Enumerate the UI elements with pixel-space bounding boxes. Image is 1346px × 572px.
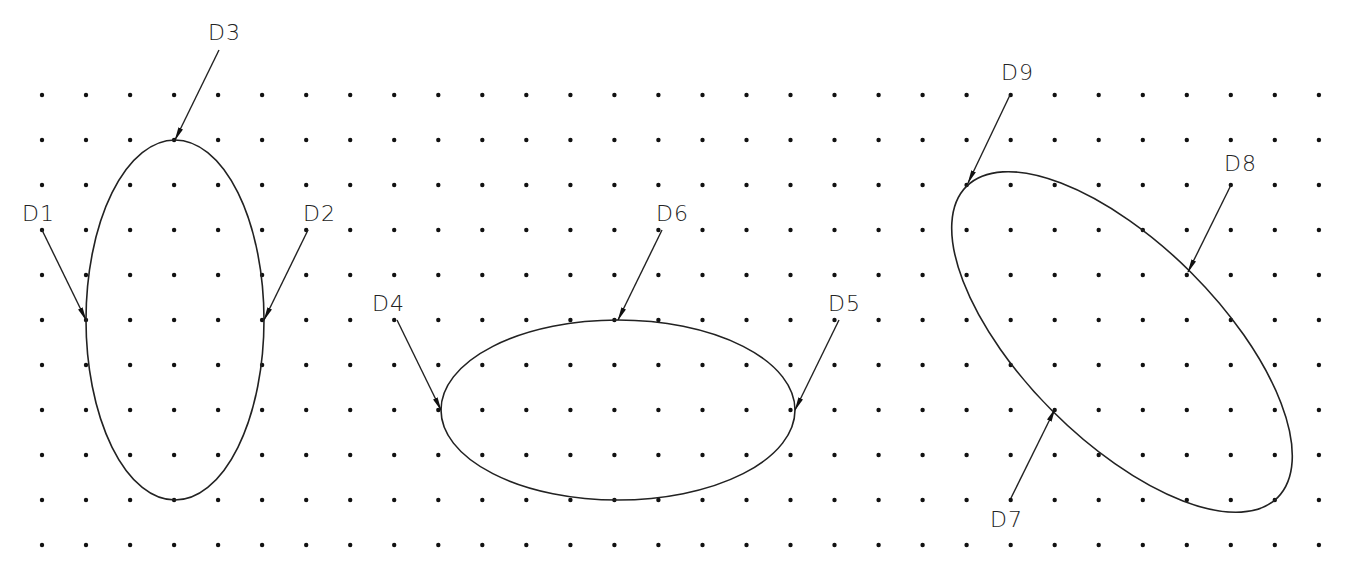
- grid-dot: [1097, 138, 1101, 142]
- callout-d2: D2: [264, 201, 336, 320]
- grid-dot: [348, 183, 352, 187]
- grid-dot: [1097, 273, 1101, 277]
- grid-dot: [656, 138, 660, 142]
- grid-dot: [40, 498, 44, 502]
- grid-dot: [524, 453, 528, 457]
- grid-dot: [40, 273, 44, 277]
- grid-dot: [480, 228, 484, 232]
- grid-dot: [1229, 93, 1233, 97]
- grid-dot: [392, 273, 396, 277]
- grid-dot: [1141, 138, 1145, 142]
- grid-dot: [216, 498, 220, 502]
- grid-dot: [920, 228, 924, 232]
- grid-dot: [1229, 273, 1233, 277]
- grid-dot: [40, 363, 44, 367]
- grid-dot: [920, 318, 924, 322]
- grid-dot: [392, 408, 396, 412]
- callout-d4: D4: [372, 291, 441, 410]
- grid-dot: [172, 543, 176, 547]
- grid-dot: [1273, 543, 1277, 547]
- grid-dot: [700, 138, 704, 142]
- grid-dot: [1009, 543, 1013, 547]
- horizontal-ellipse: [441, 320, 795, 500]
- grid-dot: [656, 408, 660, 412]
- grid-dot: [568, 183, 572, 187]
- grid-dot: [172, 93, 176, 97]
- grid-dot: [1097, 543, 1101, 547]
- grid-dot: [700, 273, 704, 277]
- grid-dot: [128, 273, 132, 277]
- grid-dot: [1273, 453, 1277, 457]
- callout-d7: D7: [990, 409, 1055, 532]
- grid-dot: [172, 408, 176, 412]
- grid-dot: [1141, 318, 1145, 322]
- grid-dot: [920, 273, 924, 277]
- grid-dot: [568, 228, 572, 232]
- grid-dot: [480, 408, 484, 412]
- grid-dot: [832, 138, 836, 142]
- grid-dot: [260, 93, 264, 97]
- grid-dot: [612, 228, 616, 232]
- grid-dot: [700, 363, 704, 367]
- grid-dot: [1229, 138, 1233, 142]
- grid-dot: [744, 318, 748, 322]
- grid-dot: [524, 543, 528, 547]
- grid-dot: [1009, 183, 1013, 187]
- grid-dot: [84, 138, 88, 142]
- grid-dot: [1053, 183, 1057, 187]
- grid-dot: [436, 228, 440, 232]
- grid-dot: [392, 453, 396, 457]
- grid-dot: [612, 273, 616, 277]
- grid-dot: [216, 183, 220, 187]
- grid-dot: [392, 228, 396, 232]
- grid-dot: [84, 273, 88, 277]
- grid-dot: [744, 228, 748, 232]
- grid-dot: [876, 318, 880, 322]
- grid-dot: [1229, 543, 1233, 547]
- grid-dot: [744, 498, 748, 502]
- grid-dot: [832, 498, 836, 502]
- grid-dot: [656, 183, 660, 187]
- grid-dot: [744, 453, 748, 457]
- grid-dot: [304, 318, 308, 322]
- grid-dot: [1141, 408, 1145, 412]
- grid-dot: [84, 543, 88, 547]
- callout-d5: D5: [795, 291, 861, 410]
- grid-dot: [480, 498, 484, 502]
- grid-dot: [524, 498, 528, 502]
- grid-dot: [480, 318, 484, 322]
- grid-dot: [304, 543, 308, 547]
- grid-dot: [304, 93, 308, 97]
- leader-arrow-icon: [968, 95, 1010, 183]
- grid-dot: [1185, 273, 1189, 277]
- grid-dot: [1053, 93, 1057, 97]
- grid-dot: [744, 363, 748, 367]
- grid-dot: [348, 273, 352, 277]
- callout-label: D7: [990, 507, 1023, 532]
- grid-dot: [568, 363, 572, 367]
- grid-dot: [656, 273, 660, 277]
- grid-dot: [172, 453, 176, 457]
- grid-dot: [40, 543, 44, 547]
- grid-dot: [832, 453, 836, 457]
- grid-dot: [84, 498, 88, 502]
- grid-dot: [1009, 228, 1013, 232]
- callout-label: D8: [1224, 151, 1257, 176]
- grid-dot: [700, 228, 704, 232]
- grid-dot: [480, 453, 484, 457]
- grid-dot: [40, 453, 44, 457]
- grid-dot: [1317, 93, 1321, 97]
- grid-dot: [216, 408, 220, 412]
- grid-dot: [392, 93, 396, 97]
- grid-dot: [920, 138, 924, 142]
- callout-label: D4: [372, 291, 405, 316]
- grid-dot: [348, 363, 352, 367]
- callout-d1: D1: [22, 201, 86, 320]
- grid-dot: [1141, 543, 1145, 547]
- grid-dot: [920, 183, 924, 187]
- grid-dot: [1053, 318, 1057, 322]
- grid-dot: [1185, 363, 1189, 367]
- grid-dot: [1229, 498, 1233, 502]
- grid-dot: [656, 543, 660, 547]
- grid-dot: [1273, 273, 1277, 277]
